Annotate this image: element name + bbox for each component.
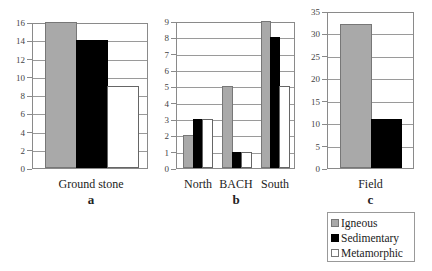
y-tick-label: 8 bbox=[147, 33, 169, 43]
y-tick-label: 4 bbox=[3, 128, 25, 138]
legend-swatch-igneous bbox=[331, 219, 339, 227]
y-tick-label: 2 bbox=[147, 131, 169, 141]
y-tick-label: 10 bbox=[298, 119, 320, 129]
plot-area bbox=[176, 22, 295, 169]
y-tick-label: 25 bbox=[298, 52, 320, 62]
legend-label: Sedimentary bbox=[341, 232, 399, 244]
y-tick-label: 4 bbox=[147, 99, 169, 109]
y-tick-label: 9 bbox=[147, 17, 169, 27]
y-tick-label: 7 bbox=[147, 50, 169, 60]
chart-a-category-label: Ground stone bbox=[45, 177, 137, 191]
y-tick-label: 0 bbox=[147, 164, 169, 174]
bar-igneous bbox=[340, 24, 372, 168]
y-tick-label: 6 bbox=[147, 66, 169, 76]
bar-igneous bbox=[45, 22, 77, 168]
legend: Igneous Sedimentary Metamorphic bbox=[327, 212, 415, 262]
y-tick-label: 8 bbox=[3, 91, 25, 101]
y-tick-label: 2 bbox=[3, 146, 25, 156]
bar-sedimentary bbox=[76, 40, 108, 168]
bar-metamorphic bbox=[107, 86, 139, 168]
y-tick-label: 3 bbox=[147, 115, 169, 125]
y-tick-label: 12 bbox=[3, 55, 25, 65]
legend-item-sedimentary: Sedimentary bbox=[331, 230, 411, 245]
bar-sedimentary bbox=[371, 119, 403, 168]
legend-label: Igneous bbox=[341, 217, 377, 229]
y-tick-label: 20 bbox=[298, 74, 320, 84]
y-tick-label: 35 bbox=[298, 7, 320, 17]
y-tick-label: 5 bbox=[147, 82, 169, 92]
y-tick-label: 14 bbox=[3, 36, 25, 46]
chart-b-category-label-north: North bbox=[178, 177, 218, 191]
y-tick-label: 0 bbox=[3, 164, 25, 174]
bar-metamorphic bbox=[279, 86, 289, 168]
chart-a-panel-label: a bbox=[45, 192, 137, 208]
y-tick-label: 1 bbox=[147, 148, 169, 158]
chart-c-category-label: Field bbox=[340, 177, 401, 191]
legend-item-igneous: Igneous bbox=[331, 215, 411, 230]
legend-label: Metamorphic bbox=[341, 247, 403, 259]
y-tick-label: 10 bbox=[3, 73, 25, 83]
y-tick-label: 5 bbox=[298, 142, 320, 152]
chart-b-panel-label: b bbox=[216, 192, 256, 208]
y-tick-label: 15 bbox=[298, 97, 320, 107]
y-tick-label: 16 bbox=[3, 18, 25, 28]
y-tick-label: 0 bbox=[298, 164, 320, 174]
bar-metamorphic bbox=[241, 152, 252, 168]
legend-swatch-sedimentary bbox=[331, 234, 339, 242]
chart-b-category-label-bach: BACH bbox=[216, 177, 256, 191]
legend-item-metamorphic: Metamorphic bbox=[331, 245, 411, 260]
chart-b-category-label-south: South bbox=[255, 177, 295, 191]
legend-swatch-metamorphic bbox=[331, 249, 339, 257]
y-tick-label: 30 bbox=[298, 29, 320, 39]
bar-metamorphic bbox=[202, 119, 213, 168]
plot-area bbox=[32, 23, 148, 169]
y-tick-label: 6 bbox=[3, 109, 25, 119]
chart-c-panel-label: c bbox=[340, 192, 401, 208]
plot-area bbox=[327, 12, 414, 169]
